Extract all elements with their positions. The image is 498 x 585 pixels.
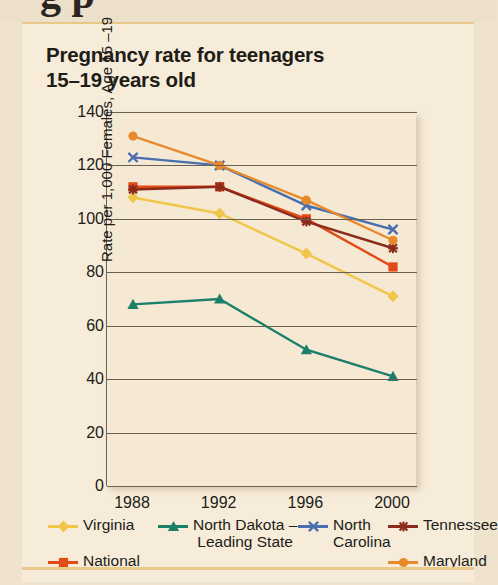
y-gridline — [107, 112, 417, 113]
data-point-diamond — [214, 208, 225, 220]
data-point-circle — [388, 236, 397, 245]
series-tennessee — [128, 182, 398, 253]
chart-card: Pregnancy rate for teenagers 15–19 years… — [22, 22, 474, 582]
data-point-circle — [302, 196, 311, 205]
data-point-square — [59, 558, 68, 567]
y-axis-tick-label: 120 — [44, 156, 104, 174]
data-point-triangle — [301, 344, 312, 354]
y-gridline — [107, 272, 417, 273]
y-gridline — [107, 326, 417, 327]
data-point-triangle — [168, 521, 179, 531]
data-point-star — [399, 522, 409, 532]
legend-label: North Dakota –Leading State — [193, 516, 297, 551]
legend-marker-cross-icon — [298, 517, 328, 535]
y-axis-tick-label: 40 — [44, 370, 104, 388]
y-axis-tick-label: 0 — [44, 477, 104, 495]
legend-marker-triangle-icon — [158, 517, 188, 535]
y-axis-tick-label: 100 — [44, 210, 104, 228]
legend-label: Virginia — [83, 516, 134, 533]
legend-label-line-2: Leading State — [193, 533, 297, 550]
plot-area — [106, 112, 416, 486]
top-page-strip: g p — [0, 0, 496, 22]
y-axis-tick-label: 60 — [44, 317, 104, 335]
series-line — [133, 197, 393, 296]
legend-label-line-1: North — [333, 516, 371, 533]
chart-title-line-1: Pregnancy rate for teenagers — [46, 43, 324, 66]
y-gridline — [107, 219, 417, 220]
legend-item-north-dakota-leading-state[interactable]: North Dakota –Leading State — [158, 516, 297, 551]
legend-item-virginia[interactable]: Virginia — [48, 516, 134, 535]
x-axis-tick-label: 1992 — [179, 494, 259, 512]
legend-label: Tennessee — [423, 516, 498, 533]
y-axis-tick-label: 140 — [44, 103, 104, 121]
data-point-star — [128, 185, 138, 195]
bottom-rule — [22, 567, 474, 570]
legend-label-line-1: North Dakota – — [193, 516, 297, 533]
y-gridline — [107, 165, 417, 166]
chart-series-layer — [107, 112, 417, 486]
data-point-diamond — [387, 290, 398, 302]
series-national — [128, 182, 397, 271]
data-point-square — [388, 262, 397, 271]
legend-marker-star-icon — [388, 517, 418, 535]
legend-label-line-1: Virginia — [83, 516, 134, 533]
legend-label: NorthCarolina — [333, 516, 391, 551]
x-axis-tick-label: 2000 — [352, 494, 432, 512]
x-axis-tick-label: 1996 — [265, 494, 345, 512]
legend-label-line-1: Tennessee — [423, 516, 498, 533]
data-point-star — [215, 182, 225, 192]
y-axis-tick-label: 80 — [44, 263, 104, 281]
legend-item-north-carolina[interactable]: NorthCarolina — [298, 516, 391, 551]
series-line — [133, 299, 393, 376]
data-point-diamond — [58, 521, 69, 533]
x-axis-tick-label: 1988 — [92, 494, 172, 512]
y-gridline — [107, 433, 417, 434]
legend-item-tennessee[interactable]: Tennessee — [388, 516, 498, 535]
page-bleed-text: g p — [40, 0, 95, 18]
y-axis-tick-label: 20 — [44, 424, 104, 442]
data-point-circle — [128, 131, 137, 140]
plot-area-wrapper: Rate per 1,000 Females, Age 15 –19 02040… — [106, 112, 416, 486]
data-point-circle — [399, 558, 408, 567]
y-gridline — [107, 379, 417, 380]
legend-label-line-2: Carolina — [333, 533, 391, 550]
series-north-dakota-leading-state — [127, 293, 398, 381]
legend-marker-diamond-icon — [48, 517, 78, 535]
data-point-cross — [309, 522, 318, 531]
data-point-diamond — [301, 248, 312, 260]
series-line — [133, 187, 393, 267]
y-gridline — [107, 486, 417, 487]
